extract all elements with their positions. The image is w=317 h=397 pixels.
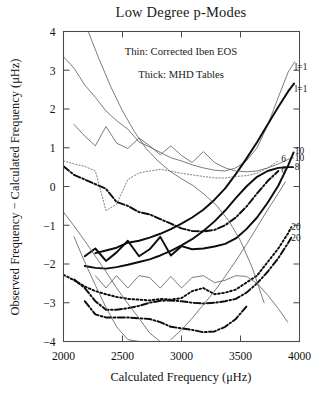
x-tick-label: 2500: [111, 350, 134, 363]
series-line: [85, 301, 247, 332]
x-tick-label: 4000: [288, 350, 311, 363]
y-tick-label: −3: [43, 297, 56, 310]
y-tick-label: −4: [43, 336, 56, 349]
curve-label: 20: [291, 222, 301, 232]
y-tick-label: −2: [43, 258, 56, 271]
x-tick-labels: 20002500300035004000: [52, 350, 311, 363]
curve-labels: l=1l=110108662020: [281, 62, 307, 243]
series-line: [74, 125, 293, 172]
y-tick-label: 3: [50, 65, 56, 78]
curve-label: l=1: [295, 62, 308, 72]
y-tick-label: 0: [50, 181, 56, 194]
x-axis-label: Calculated Frequency (μHz): [111, 370, 252, 384]
figure-panel: Low Degree p-Modes Thin: Corrected Iben …: [0, 0, 317, 397]
y-axis-label: Observed Frequency − Calculated Frequenc…: [8, 59, 22, 316]
annotation-thin-eos: Thin: Corrected Iben EOS: [125, 45, 238, 57]
x-tick-label: 2000: [52, 350, 75, 363]
series-line: [85, 152, 294, 261]
y-tick-label: 4: [50, 26, 56, 39]
curve-label: 8: [295, 162, 300, 172]
curve-label: 20: [291, 233, 301, 243]
curve-label: l=1: [295, 84, 308, 94]
series-line: [64, 166, 279, 231]
series-line: [95, 83, 294, 253]
y-tick-label: 1: [50, 142, 56, 155]
y-tick-label: −1: [43, 220, 56, 233]
p-modes-line-chart: Low Degree p-Modes Thin: Corrected Iben …: [0, 0, 317, 397]
x-tick-label: 3500: [229, 350, 252, 363]
y-tick-label: 2: [50, 103, 56, 116]
y-tick-labels: −4−3−2−101234: [43, 26, 56, 349]
curve-label: 6: [281, 165, 286, 175]
x-tick-label: 3000: [170, 350, 193, 363]
chart-title: Low Degree p-Modes: [116, 4, 247, 20]
curve-label: 6: [281, 154, 286, 164]
annotation-thick-mhd: Thick: MHD Tables: [138, 68, 224, 80]
